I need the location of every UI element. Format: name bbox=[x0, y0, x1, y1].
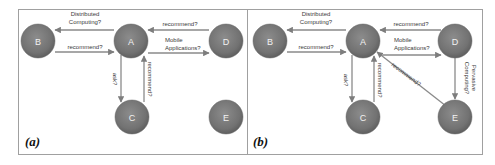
node-e: E bbox=[209, 100, 243, 134]
edge-label-a-c: ask? bbox=[112, 73, 118, 86]
panel-a: Distributed Computing? recommend? recomm… bbox=[19, 10, 248, 155]
node-c-label: C bbox=[129, 113, 136, 123]
edge-label-a-d-line2: Applications? bbox=[394, 45, 430, 51]
node-b-label: B bbox=[267, 37, 273, 47]
node-b: B bbox=[253, 24, 287, 58]
edge-label-d-e-line2: Computing? bbox=[464, 62, 470, 95]
panel-b-label: (b) bbox=[253, 134, 268, 149]
edge-label-d-e-line1: Pervasive bbox=[471, 65, 477, 92]
node-e-label: E bbox=[452, 113, 458, 123]
edge-label-d-a: recommend? bbox=[393, 21, 429, 27]
node-b-label: B bbox=[35, 37, 41, 47]
panel-a-label: (a) bbox=[25, 134, 40, 149]
node-a-label: A bbox=[360, 37, 366, 47]
edge-label-a-d-line1: Mobile bbox=[394, 37, 412, 43]
edge-label-a-c: ask? bbox=[343, 74, 349, 87]
node-d-label: D bbox=[452, 37, 459, 47]
node-c-label: C bbox=[360, 113, 367, 123]
node-e-label: E bbox=[223, 113, 229, 123]
panel-b: Distributed Computing? recommend? recomm… bbox=[248, 10, 483, 155]
node-d: D bbox=[209, 24, 243, 58]
edge-label-c-a: recommend? bbox=[377, 62, 383, 98]
edge-label-a-b-line1: Distributed bbox=[302, 11, 331, 17]
node-a-label: A bbox=[128, 37, 134, 47]
edge-label-b-a: recommend? bbox=[298, 44, 334, 50]
node-e: E bbox=[438, 100, 472, 134]
node-a: A bbox=[114, 24, 148, 58]
node-c: C bbox=[346, 100, 380, 134]
edge-label-d-a: recommend? bbox=[162, 21, 198, 27]
node-d-label: D bbox=[223, 37, 230, 47]
edge-label-a-b-line2: Computing? bbox=[300, 19, 333, 25]
edge-label-b-a: recommend? bbox=[67, 44, 103, 50]
edge-label-a-b-line2: Computing? bbox=[69, 19, 102, 25]
node-d: D bbox=[438, 24, 472, 58]
edge-label-c-a: recommend? bbox=[147, 61, 153, 97]
node-a: A bbox=[346, 24, 380, 58]
node-c: C bbox=[115, 100, 149, 134]
node-b: B bbox=[21, 24, 55, 58]
edge-label-a-d-line1: Mobile bbox=[165, 37, 183, 43]
edge-label-a-d-line2: Applications? bbox=[165, 45, 201, 51]
edge-label-a-b-line1: Distributed bbox=[71, 11, 100, 17]
figure-canvas: Distributed Computing? recommend? recomm… bbox=[0, 0, 495, 165]
